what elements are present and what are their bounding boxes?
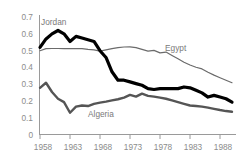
x-tick-label: 1968 — [94, 142, 113, 152]
series-line-jordan — [40, 30, 232, 102]
chart-canvas: 0.7 0.6 0.5 0.4 0.3 0.2 0.1 0 1958 1963 … — [0, 0, 243, 161]
series-line-egypt — [40, 47, 232, 83]
x-axis-tick-labels: 1958 1963 1968 1973 1978 1983 1988 — [34, 142, 233, 152]
x-tick-label: 1978 — [154, 142, 173, 152]
y-tick-label: 0.3 — [21, 79, 33, 89]
series-label-algeria: Algeria — [88, 109, 114, 119]
x-tick-label: 1988 — [214, 142, 233, 152]
y-tick-label: 0.5 — [21, 46, 33, 56]
x-tick-label: 1983 — [184, 142, 203, 152]
x-tick-label: 1958 — [34, 142, 53, 152]
y-tick-label: 0.7 — [21, 12, 33, 22]
y-tick-label: 0.2 — [21, 96, 33, 106]
y-tick-label: 0 — [28, 130, 33, 140]
series-label-egypt: Egypt — [165, 43, 187, 53]
series-lines — [40, 30, 232, 112]
line-chart: 0.7 0.6 0.5 0.4 0.3 0.2 0.1 0 1958 1963 … — [0, 0, 243, 161]
x-tick-label: 1973 — [124, 142, 143, 152]
y-tick-label: 0.4 — [21, 62, 33, 72]
x-tick-label: 1963 — [64, 142, 83, 152]
y-axis-tick-labels: 0.7 0.6 0.5 0.4 0.3 0.2 0.1 0 — [21, 12, 33, 140]
series-label-jordan: Jordan — [41, 17, 67, 27]
series-line-algeria — [40, 83, 232, 113]
y-tick-label: 0.6 — [21, 29, 33, 39]
y-tick-label: 0.1 — [21, 113, 33, 123]
x-axis-tick-marks — [40, 135, 220, 139]
